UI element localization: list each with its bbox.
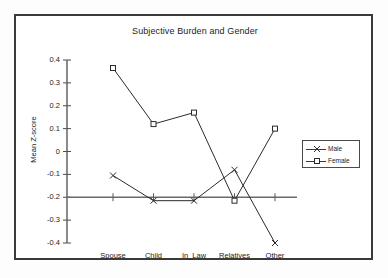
- data-point-female-child: [151, 122, 156, 127]
- series-group: [110, 66, 278, 246]
- data-point-female-relatives: [232, 198, 237, 203]
- plot-area: [0, 0, 388, 278]
- legend-label-female: Female: [328, 157, 350, 164]
- legend-item-female[interactable]: Female: [306, 156, 358, 166]
- data-point-male-relatives: [232, 167, 238, 173]
- legend-item-male[interactable]: Male: [306, 144, 358, 154]
- series-line-male: [113, 170, 275, 243]
- x-marker-icon: [313, 145, 321, 153]
- chart-screenshot: Subjective Burden and Gender Mean Z-scor…: [0, 0, 388, 278]
- data-point-female-in_law: [192, 110, 197, 115]
- legend-box: Male Female: [302, 140, 360, 168]
- legend-label-male: Male: [328, 145, 342, 152]
- data-point-female-spouse: [111, 66, 116, 71]
- data-point-male-spouse: [110, 173, 116, 179]
- data-point-female-other: [273, 126, 278, 131]
- data-point-male-other: [272, 240, 278, 246]
- series-line-female: [113, 68, 275, 201]
- square-marker-icon: [313, 157, 321, 165]
